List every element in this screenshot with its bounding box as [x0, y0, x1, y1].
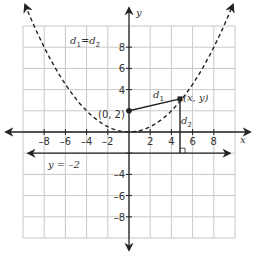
- x-tick-label: –2: [102, 136, 113, 147]
- y-tick-label: –4: [114, 169, 125, 180]
- directrix-label: y = –2: [47, 159, 80, 170]
- x-tick-label: 6: [189, 136, 195, 147]
- y-tick-label: 6: [119, 63, 125, 74]
- d1-segment: [129, 99, 180, 111]
- y-tick-label: 4: [119, 85, 125, 96]
- y-tick-label: 8: [119, 42, 125, 53]
- x-axis-label: x: [240, 134, 246, 145]
- x-tick-label: 8: [211, 136, 217, 147]
- y-tick-label: –6: [114, 191, 125, 202]
- x-tick-label: –4: [81, 136, 92, 147]
- parabola-point: [178, 96, 183, 101]
- right-angle-mark: [180, 148, 185, 153]
- d2-label: d2: [181, 115, 192, 129]
- x-tick-label: 2: [147, 136, 153, 147]
- x-tick-label: –8: [39, 136, 50, 147]
- d1-label: d1: [153, 89, 164, 103]
- y-axis-label: y: [135, 7, 142, 18]
- x-tick-label: –6: [60, 136, 71, 147]
- point-label: (x, y): [183, 92, 209, 103]
- focus-point: [126, 108, 132, 114]
- focus-label: (0, 2): [98, 109, 125, 120]
- coordinate-plane: –8–6–4–22468864–4–6–8 d1=d2 y x (0, 2) (…: [0, 0, 257, 263]
- y-tick-label: –8: [114, 212, 125, 223]
- x-tick-label: 4: [168, 136, 174, 147]
- parabola-diagram: –8–6–4–22468864–4–6–8 d1=d2 y x (0, 2) (…: [0, 0, 257, 263]
